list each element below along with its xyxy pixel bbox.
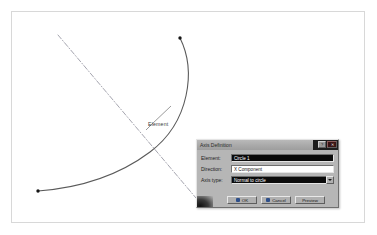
dialog-button-row: OK Cancel Preview [227,196,325,204]
field-row-axis-type: Axis type: Normal to circle [201,175,334,184]
dialog-title: Axis Definition [197,142,232,148]
dialog-body: Element: Circle 1 Direction: X Component… [197,150,338,207]
ok-button[interactable]: OK [227,196,257,204]
cancel-button-icon [266,198,270,202]
arc-endpoint-top [178,36,181,39]
titlebar-button-group: ? ✕ [318,141,337,148]
screenshot-root: Element Axis Definition ? ✕ Element: Cir… [0,0,377,235]
help-icon[interactable]: ? [318,141,326,148]
axis-type-value[interactable]: Normal to circle [231,176,326,184]
axis-type-field-label: Axis type: [201,177,231,183]
ok-button-icon [236,198,240,202]
close-icon[interactable]: ✕ [327,141,337,148]
dialog-titlebar[interactable]: Axis Definition ? ✕ [197,140,338,150]
element-field-input[interactable]: Circle 1 [231,154,334,162]
axis-type-combobox[interactable]: Normal to circle [231,176,334,184]
dash-dot-axis-line [58,35,196,198]
cancel-button[interactable]: Cancel [261,196,291,204]
element-field-label: Element: [201,155,231,161]
circle-arc-path [38,38,188,191]
arc-endpoint-bottom [36,189,39,192]
direction-field-label: Direction: [201,166,231,172]
dialog-resize-grip[interactable] [197,196,213,207]
cancel-button-label: Cancel [272,198,286,203]
axis-definition-dialog[interactable]: Axis Definition ? ✕ Element: Circle 1 Di… [196,139,339,208]
chevron-down-icon[interactable] [326,176,334,184]
ok-button-label: OK [242,198,248,203]
field-row-direction: Direction: X Component [201,164,334,173]
direction-field-input[interactable]: X Component [231,165,334,173]
field-row-element: Element: Circle 1 [201,153,334,162]
preview-button-label: Preview [302,198,318,203]
element-annotation-label: Element [148,121,168,127]
preview-button[interactable]: Preview [295,196,325,204]
